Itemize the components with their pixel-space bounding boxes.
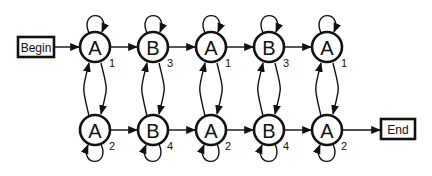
node-index: 2 (341, 140, 347, 152)
node-label: B (262, 37, 275, 59)
self-loop-bottom-3 (260, 144, 277, 161)
edge-down-0 (101, 63, 106, 114)
node-index: 4 (167, 140, 173, 152)
self-loop-top-1 (145, 16, 162, 33)
node-top-4: A1 (312, 32, 347, 69)
node-label: A (88, 120, 102, 142)
node-bottom-0: A2 (80, 115, 115, 152)
self-loop-top-3 (261, 16, 278, 33)
edge-up-0 (84, 63, 89, 116)
self-loop-top-0 (87, 16, 104, 33)
node-label: B (146, 37, 159, 59)
begin-label: Begin (21, 41, 52, 55)
node-top-0: A1 (80, 32, 115, 69)
node-label: B (262, 120, 275, 142)
node-index: 1 (109, 57, 115, 69)
edge-down-4 (333, 63, 338, 114)
node-bottom-1: B4 (138, 115, 173, 152)
self-loop-bottom-4 (318, 144, 335, 161)
edge-up-4 (316, 63, 321, 116)
self-loop-top-2 (203, 16, 220, 33)
edge-up-1 (142, 63, 147, 116)
self-loop-top-4 (319, 16, 336, 33)
self-loop-bottom-1 (144, 144, 161, 161)
node-bottom-3: B4 (254, 115, 289, 152)
end-label: End (387, 123, 408, 137)
node-index: 3 (167, 57, 173, 69)
edge-down-2 (217, 63, 222, 114)
edge-up-2 (200, 63, 205, 116)
node-bottom-2: A2 (196, 115, 231, 152)
edge-down-1 (159, 63, 164, 114)
nodes-layer: A1A2B3B4A1A2B3B4A1A2 (80, 32, 347, 152)
node-label: A (88, 37, 102, 59)
self-loop-bottom-2 (202, 144, 219, 161)
edge-down-3 (275, 63, 280, 114)
node-index: 1 (341, 57, 347, 69)
node-label: A (320, 120, 334, 142)
node-index: 4 (283, 140, 289, 152)
node-bottom-4: A2 (312, 115, 347, 152)
node-label: B (146, 120, 159, 142)
node-index: 1 (225, 57, 231, 69)
node-top-2: A1 (196, 32, 231, 69)
node-label: A (204, 37, 218, 59)
edge-up-3 (258, 63, 263, 116)
node-label: A (204, 120, 218, 142)
state-diagram: A1A2B3B4A1A2B3B4A1A2 Begin End (0, 0, 432, 176)
node-index: 2 (109, 140, 115, 152)
node-index: 2 (225, 140, 231, 152)
node-top-3: B3 (254, 32, 289, 69)
self-loop-bottom-0 (86, 144, 103, 161)
node-index: 3 (283, 57, 289, 69)
node-label: A (320, 37, 334, 59)
node-top-1: B3 (138, 32, 173, 69)
